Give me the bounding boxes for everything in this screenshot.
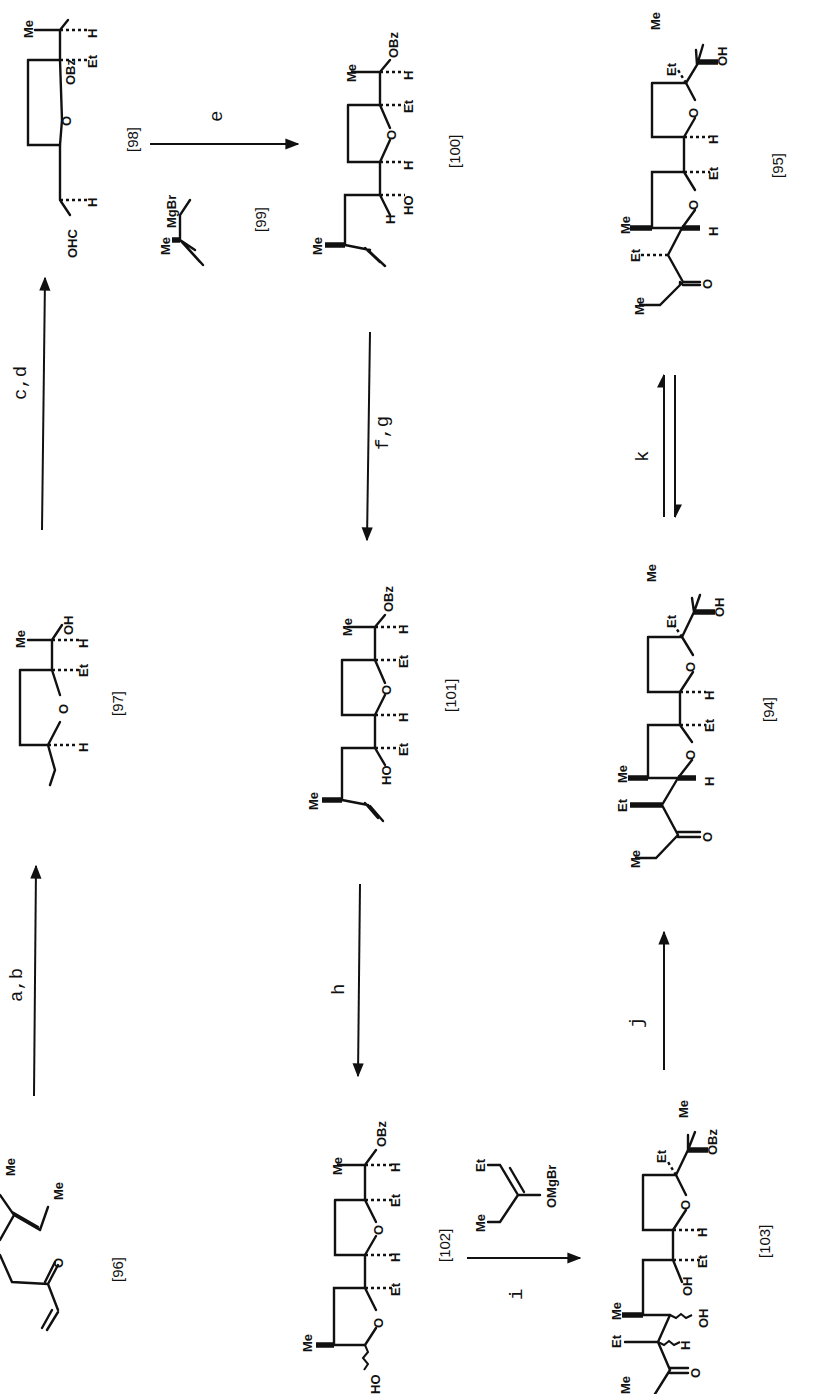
svg-text:Me: Me xyxy=(618,216,633,234)
svg-text:HO: HO xyxy=(401,196,416,216)
svg-text:Et: Et xyxy=(401,99,416,113)
svg-text:[99]: [99] xyxy=(252,207,269,232)
svg-text:Me: Me xyxy=(676,1100,691,1118)
svg-text:OH: OH xyxy=(715,47,730,67)
svg-text:Me: Me xyxy=(3,1158,18,1176)
svg-text:OBz: OBz xyxy=(63,59,78,86)
svg-text:Me: Me xyxy=(615,765,630,783)
svg-text:O: O xyxy=(59,116,74,126)
svg-text:OH: OH xyxy=(680,1277,695,1297)
compound-102: Me OBz H Et O H Et O HO Me [102] xyxy=(300,1121,453,1394)
svg-text:O: O xyxy=(51,1258,66,1268)
svg-text:MgBr: MgBr xyxy=(164,195,179,228)
svg-text:Me: Me xyxy=(310,237,325,255)
svg-text:[101]: [101] xyxy=(442,679,459,712)
svg-text:H: H xyxy=(706,227,721,236)
svg-text:Me: Me xyxy=(51,1182,66,1200)
step-k-equilibrium: k xyxy=(632,375,675,517)
svg-text:O: O xyxy=(683,750,698,760)
svg-text:[102]: [102] xyxy=(436,1229,453,1262)
svg-text:O: O xyxy=(56,704,71,714)
svg-text:[95]: [95] xyxy=(769,153,786,178)
svg-text:O: O xyxy=(700,832,715,842)
svg-text:H: H xyxy=(401,161,416,170)
svg-text:Et: Et xyxy=(85,54,100,68)
reaction-scheme: Me OBz H Et O H OHC [98] MgBr Me [99] e … xyxy=(0,0,839,1394)
svg-text:Et: Et xyxy=(702,718,717,732)
svg-text:Et: Et xyxy=(388,1193,403,1207)
svg-text:Me: Me xyxy=(473,1214,488,1232)
svg-text:Me: Me xyxy=(21,20,36,38)
step-i: Et OMgBr Me i xyxy=(467,1158,580,1300)
svg-text:OBz: OBz xyxy=(374,1121,389,1148)
svg-text:Et: Et xyxy=(664,62,679,76)
step-a-b: a,b xyxy=(6,866,36,1096)
svg-text:O: O xyxy=(686,108,701,118)
compound-100: Me OBz H Et O H HO H Me [100] xyxy=(310,32,463,267)
svg-text:Et: Et xyxy=(664,614,679,628)
svg-text:Me: Me xyxy=(628,850,643,868)
svg-text:O: O xyxy=(686,200,701,210)
svg-text:HO: HO xyxy=(368,1375,383,1394)
svg-text:H: H xyxy=(401,71,416,80)
svg-text:O: O xyxy=(371,1225,386,1235)
scheme-graphic: Me OBz H Et O H OHC [98] MgBr Me [99] e … xyxy=(0,0,839,1394)
svg-text:H: H xyxy=(702,777,717,786)
svg-text:j: j xyxy=(626,1017,648,1028)
compound-98: Me OBz H Et O H OHC [98] xyxy=(21,20,141,258)
compound-99: MgBr Me [99] xyxy=(158,195,269,265)
svg-text:H: H xyxy=(706,135,721,144)
svg-text:Me: Me xyxy=(618,1376,633,1394)
svg-text:Me: Me xyxy=(340,618,355,636)
svg-text:O: O xyxy=(700,279,715,289)
svg-text:OH: OH xyxy=(712,598,727,618)
compound-94: Me Et OH O H Et O Me H Et O Me [94] xyxy=(615,564,777,868)
svg-text:H: H xyxy=(85,29,100,38)
svg-text:O: O xyxy=(678,1200,693,1210)
svg-text:OHC: OHC xyxy=(65,229,80,259)
svg-text:i: i xyxy=(506,1289,528,1300)
svg-text:Et: Et xyxy=(388,1282,403,1296)
svg-text:OBz: OBz xyxy=(386,32,401,59)
svg-text:O: O xyxy=(371,1318,386,1328)
compound-95: Me Et OH O H Et O Me H Et O Me [95] xyxy=(618,12,786,315)
svg-text:O: O xyxy=(379,685,394,695)
svg-text:Me: Me xyxy=(158,237,173,255)
svg-text:[103]: [103] xyxy=(756,1225,773,1258)
svg-text:O: O xyxy=(688,1368,703,1378)
svg-text:O: O xyxy=(683,662,698,672)
svg-text:Me: Me xyxy=(330,1157,345,1175)
svg-text:H: H xyxy=(76,639,91,648)
step-c-d: c,d xyxy=(10,278,45,530)
svg-text:c,d: c,d xyxy=(10,366,32,400)
svg-text:Me: Me xyxy=(306,792,321,810)
step-h: h xyxy=(328,884,360,1076)
svg-text:OH: OH xyxy=(696,1309,711,1329)
svg-text:O: O xyxy=(384,130,399,140)
svg-text:Me: Me xyxy=(644,564,659,582)
svg-text:Et: Et xyxy=(706,166,721,180)
svg-text:Et: Et xyxy=(76,663,91,677)
svg-text:H: H xyxy=(678,1341,693,1350)
svg-text:Et: Et xyxy=(615,798,630,812)
svg-text:h: h xyxy=(328,984,350,995)
step-f-g: f,g xyxy=(367,332,394,540)
svg-text:Et: Et xyxy=(628,248,643,262)
svg-text:[100]: [100] xyxy=(446,135,463,168)
svg-text:[97]: [97] xyxy=(109,691,126,716)
svg-text:H: H xyxy=(388,1163,403,1172)
svg-text:k: k xyxy=(632,451,654,462)
svg-text:Et: Et xyxy=(695,1254,710,1268)
svg-text:OH: OH xyxy=(61,616,76,636)
svg-text:Et: Et xyxy=(396,742,411,756)
compound-97: Me OH H Et O H [97] xyxy=(13,616,126,786)
svg-text:Me: Me xyxy=(632,297,647,315)
svg-text:H: H xyxy=(396,625,411,634)
svg-text:a,b: a,b xyxy=(6,968,28,1002)
svg-text:H: H xyxy=(85,198,100,207)
svg-text:e: e xyxy=(206,111,228,122)
svg-text:H: H xyxy=(702,691,717,700)
svg-text:H: H xyxy=(388,1253,403,1262)
svg-text:Et: Et xyxy=(396,654,411,668)
svg-text:[94]: [94] xyxy=(760,697,777,722)
